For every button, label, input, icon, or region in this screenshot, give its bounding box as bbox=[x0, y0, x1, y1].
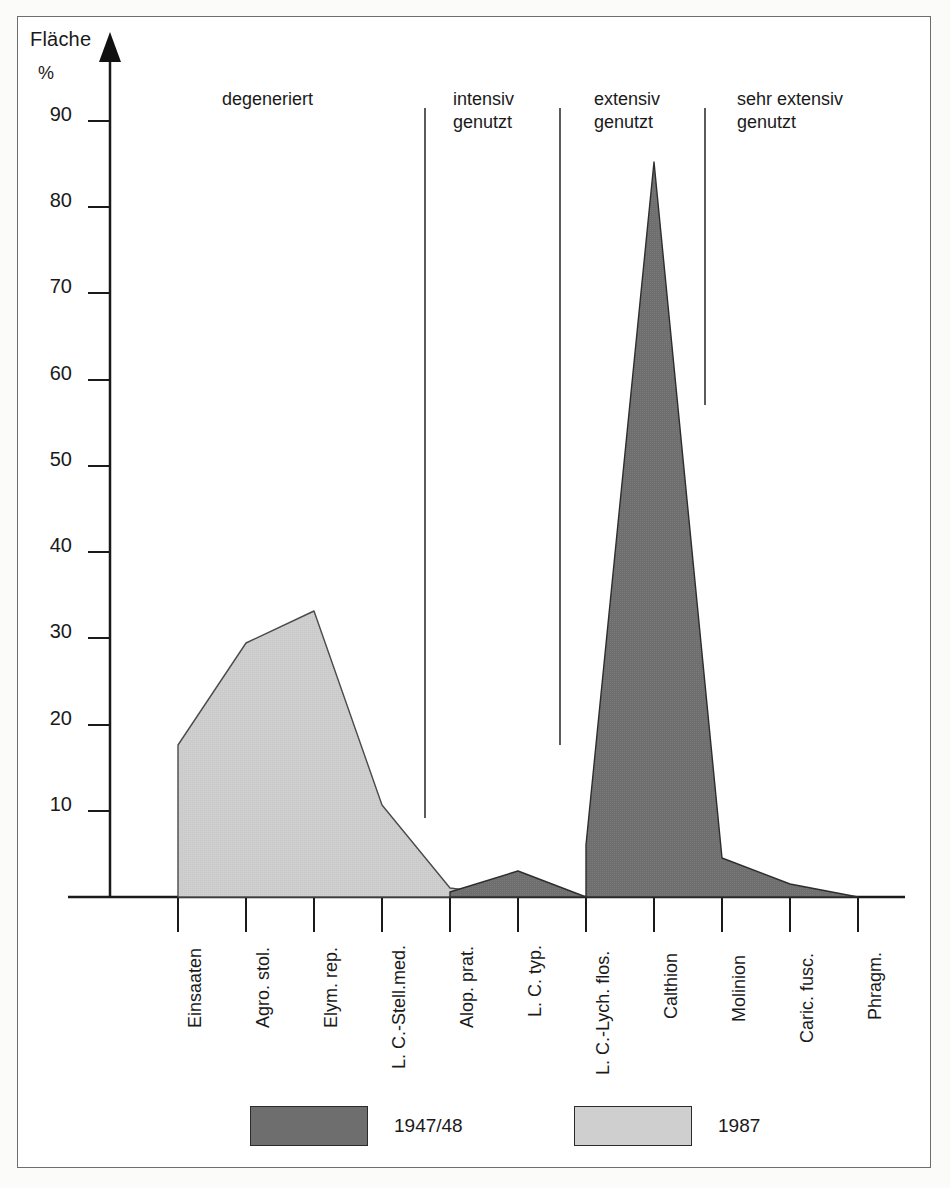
y-tick-marks bbox=[88, 121, 110, 811]
series-area-1987 bbox=[178, 611, 518, 897]
legend-label-1947-48: 1947/48 bbox=[394, 1115, 463, 1137]
chart-legend: 1947/48 1987 bbox=[250, 1102, 810, 1150]
legend-swatch-1987 bbox=[574, 1106, 692, 1146]
chart-page: Fläche % 90 80 70 60 50 40 30 20 10 dege… bbox=[0, 0, 950, 1188]
y-axis bbox=[99, 32, 121, 897]
series-area-1947-48 bbox=[450, 162, 858, 897]
legend-label-1987: 1987 bbox=[718, 1115, 760, 1137]
plot-area bbox=[0, 0, 950, 1188]
x-tick-marks bbox=[178, 897, 858, 932]
legend-swatch-1947-48 bbox=[250, 1106, 368, 1146]
